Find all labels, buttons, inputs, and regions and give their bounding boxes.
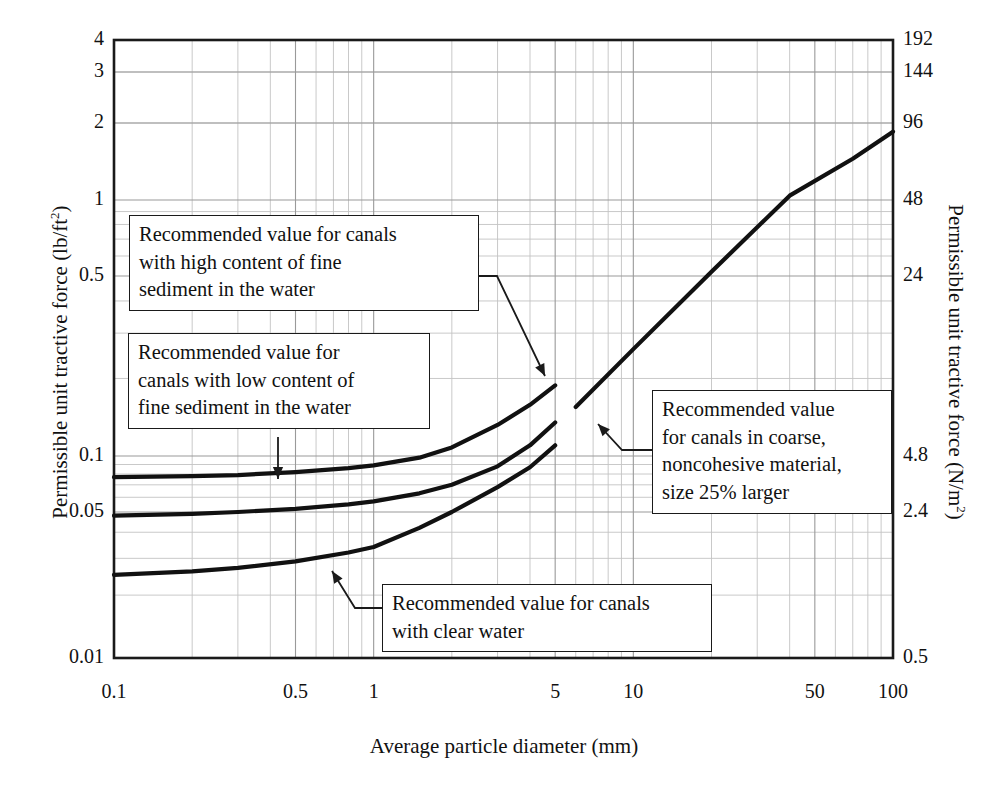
callout-line: Recommended value: [662, 396, 882, 424]
y-tick-right-5: 4.8: [903, 443, 963, 466]
y-tick-right-0: 192: [903, 27, 963, 50]
curve-3: [576, 132, 893, 407]
x-tick-3: 5: [525, 680, 585, 703]
callout-line: Recommended value for canals: [392, 590, 702, 618]
leader-line: [478, 276, 545, 376]
callout-high-sediment: Recommended value for canalswith high co…: [129, 215, 479, 311]
x-tick-1: 0.5: [265, 680, 325, 703]
callout-line: canals with low content of: [138, 367, 420, 395]
x-tick-6: 100: [863, 680, 923, 703]
callout-line: with clear water: [392, 618, 702, 646]
chart-page: Permissible unit tractive force (lb/ft2)…: [0, 0, 1004, 793]
y-tick-left-7: 0.01: [44, 645, 104, 668]
callout-line: noncohesive material,: [662, 451, 882, 479]
x-tick-4: 10: [603, 680, 663, 703]
callout-coarse-material: Recommended valuefor canals in coarse,no…: [652, 390, 892, 514]
callout-line: Recommended value for canals: [139, 221, 469, 249]
callout-line: with high content of fine: [139, 249, 469, 277]
y-tick-right-7: 0.5: [903, 645, 963, 668]
callout-clear-water: Recommended value for canalswith clear w…: [382, 584, 712, 652]
y-axis-title-left-sup: 2: [47, 212, 62, 219]
callout-line: Recommended value for: [138, 339, 420, 367]
y-tick-right-6: 2.4: [903, 499, 963, 522]
callout-line: fine sediment in the water: [138, 394, 420, 422]
y-tick-left-2: 2: [44, 110, 104, 133]
callout-line: for canals in coarse,: [662, 424, 882, 452]
y-tick-left-3: 1: [44, 187, 104, 210]
y-tick-right-2: 96: [903, 110, 963, 133]
callout-line: sediment in the water: [139, 276, 469, 304]
y-tick-left-6: 0.05: [44, 499, 104, 522]
y-tick-left-0: 4: [44, 27, 104, 50]
y-tick-left-1: 3: [44, 59, 104, 82]
callout-low-sediment: Recommended value forcanals with low con…: [128, 333, 430, 429]
x-axis-title: Average particle diameter (mm): [114, 734, 894, 759]
y-tick-right-3: 48: [903, 187, 963, 210]
x-tick-2: 1: [344, 680, 404, 703]
y-tick-left-5: 0.1: [44, 443, 104, 466]
y-tick-right-4: 24: [903, 263, 963, 286]
x-tick-0: 0.1: [84, 680, 144, 703]
y-tick-right-1: 144: [903, 59, 963, 82]
y-tick-left-4: 0.5: [44, 263, 104, 286]
x-tick-5: 50: [785, 680, 845, 703]
callout-line: size 25% larger: [662, 479, 882, 507]
